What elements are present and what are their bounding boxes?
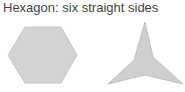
shapes-canvas (0, 0, 185, 92)
three-pointed-star-shape (108, 22, 183, 84)
hexagon-shape (8, 27, 77, 83)
